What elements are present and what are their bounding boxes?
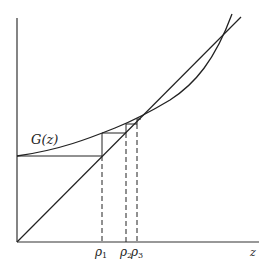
svg-text:ρ: ρ <box>130 245 138 259</box>
svg-text:ρ: ρ <box>119 245 127 259</box>
diagonal-line <box>17 17 241 242</box>
curve-label: G(z) <box>31 132 58 147</box>
svg-text:3: 3 <box>138 251 143 260</box>
rho3-label: ρ 3 <box>130 245 143 260</box>
svg-text:1: 1 <box>102 251 107 260</box>
rho1-label: ρ 1 <box>94 245 107 260</box>
fixed-point-iteration-diagram: G(z) z ρ 1 ρ 2 ρ 3 <box>0 0 274 270</box>
x-axis-label: z <box>249 246 256 259</box>
svg-text:ρ: ρ <box>94 245 102 259</box>
